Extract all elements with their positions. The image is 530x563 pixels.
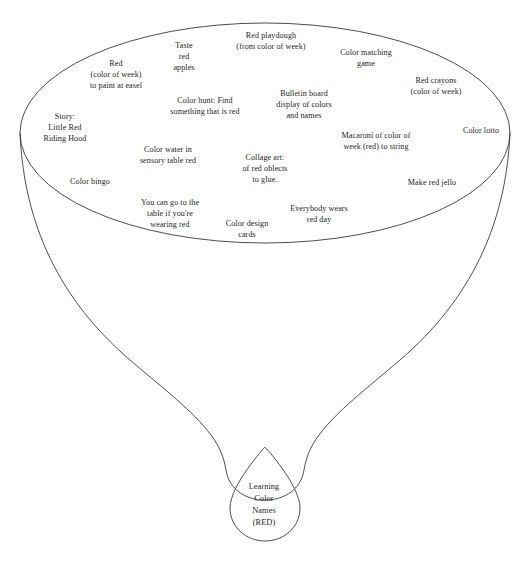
outcome-label: Learning Color Names (RED) (249, 481, 280, 529)
activity-note[interactable]: Make red jello (408, 178, 456, 189)
activity-note[interactable]: Red (color of week) to paint at easel (90, 59, 142, 92)
activity-note[interactable]: Color matching game (340, 48, 392, 70)
funnel-diagram: Red (color of week) to paint at easel Ta… (0, 0, 530, 563)
activity-note[interactable]: Red playdough (from color of week) (236, 31, 305, 53)
activity-note[interactable]: Red crayons (color of week) (410, 76, 461, 98)
activity-note[interactable]: Everybody wears red day (290, 204, 348, 226)
activity-note[interactable]: Color lotto (463, 126, 499, 137)
activity-note[interactable]: Taste red apples (173, 41, 194, 74)
activity-note[interactable]: Collage art: of red oblects to glue. (242, 153, 287, 186)
activity-note[interactable]: Color bingo (70, 177, 110, 188)
activity-note[interactable]: You can go to the table if you're wearin… (141, 198, 199, 231)
activity-note[interactable]: Story: Little Red Riding Hood (44, 112, 87, 145)
funnel-left-wall (20, 133, 226, 470)
activity-note[interactable]: Bulletin board display of colors and nam… (276, 89, 331, 122)
activity-note[interactable]: Macaroni of color of week (red) to strin… (342, 131, 411, 153)
funnel-rim-ellipse (20, 23, 510, 243)
activity-note[interactable]: Color hunt: Find something that is red (170, 96, 239, 118)
activity-note[interactable]: Color design cards (226, 219, 269, 241)
activity-note[interactable]: Color water in sensory table red (140, 145, 196, 167)
